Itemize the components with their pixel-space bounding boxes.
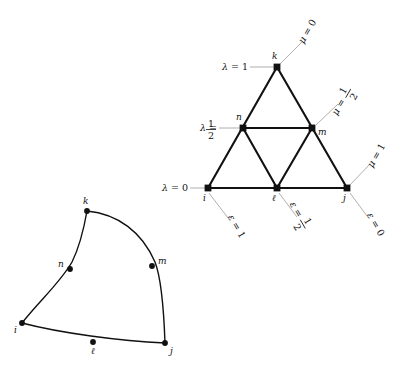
curved-patch-group: i ℓ j n m k — [14, 196, 173, 356]
edge-m-l — [277, 128, 312, 188]
curved-vertex-j: j — [162, 340, 173, 356]
svg-text:ε = 1: ε = 1 — [226, 213, 248, 240]
svg-text:ε =: ε = — [288, 200, 306, 219]
lambda-1-value: 1 — [242, 61, 248, 72]
lambda-half-numerator: 1 — [208, 118, 214, 129]
figure-root: i ℓ j n m k — [0, 0, 396, 370]
mu-labels-group: μ = 0 μ = 1 2 μ = 1 — [296, 17, 388, 169]
triangle-vertex-label-m: m — [318, 127, 327, 137]
lambda-1-label: λ = 1 — [221, 61, 248, 72]
epsilon-labels-group: ε = 1 ε = 1 2 ε = 0 — [226, 198, 387, 240]
lambda-0-value: 0 — [182, 182, 188, 193]
triangle-vertex-i: i — [203, 185, 211, 203]
mu-half-label: μ = 1 2 — [326, 83, 361, 121]
curved-vertex-m: m — [149, 256, 166, 269]
curved-vertex-label-j: j — [168, 346, 173, 356]
curved-vertex-k: k — [83, 196, 90, 214]
lambda-half-label: λ = 1 2 — [199, 118, 217, 141]
curved-vertex-label-k: k — [83, 196, 88, 206]
eps-1-label: ε = 1 — [226, 213, 248, 240]
mu-1-label: μ = 1 — [365, 141, 388, 169]
curved-vertex-l: ℓ — [90, 339, 96, 356]
curve-i-to-k — [22, 211, 87, 323]
svg-text:μ = 1: μ = 1 — [365, 141, 388, 169]
mu-half-denominator: 2 — [347, 91, 360, 102]
svg-text:μ = 0: μ = 0 — [296, 17, 319, 45]
leader-mu-1 — [350, 164, 370, 185]
triangle-vertex-label-j: j — [341, 193, 346, 203]
triangle-vertex-label-k: k — [272, 51, 277, 61]
curved-vertex-i: i — [14, 320, 25, 335]
curve-k-to-j — [87, 211, 165, 343]
triangle-vertex-label-n: n — [236, 112, 242, 122]
curved-vertex-label-n: n — [58, 259, 64, 269]
triangle-vertex-label-i: i — [203, 193, 206, 203]
curved-vertex-label-l: ℓ — [91, 346, 95, 356]
svg-text:μ =: μ = — [329, 97, 347, 117]
lambda-labels-group: λ = 1 λ = 1 2 λ = 0 — [161, 61, 248, 193]
lambda-half-denominator: 2 — [208, 130, 214, 141]
triangle-vertex-label-l: ℓ — [272, 193, 276, 203]
eps-half-denominator: 2 — [291, 222, 304, 233]
leader-eps-0 — [350, 193, 367, 216]
lambda-0-label: λ = 0 — [161, 182, 188, 193]
leader-mu-0 — [280, 41, 303, 64]
triangle-vertex-m: m — [309, 125, 327, 137]
edge-n-l — [243, 128, 277, 188]
leader-eps-1 — [209, 193, 228, 218]
eps-0-label: ε = 0 — [365, 211, 387, 238]
triangle-vertex-k: k — [272, 51, 280, 70]
eps-half-label: ε = 1 2 — [281, 198, 315, 235]
mu-0-label: μ = 0 — [296, 17, 319, 45]
mathematical-figure: i ℓ j n m k — [0, 0, 396, 370]
svg-text:ε = 0: ε = 0 — [365, 211, 387, 238]
curved-vertex-label-m: m — [158, 256, 167, 266]
curved-vertex-label-i: i — [14, 325, 17, 335]
